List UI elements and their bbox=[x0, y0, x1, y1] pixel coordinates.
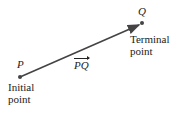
initial-point-caption: Initial point bbox=[8, 81, 34, 105]
point-p-label: P bbox=[17, 58, 24, 70]
initial-caption-line2: point bbox=[8, 93, 34, 105]
terminal-point-dot bbox=[140, 21, 144, 25]
point-q-label: Q bbox=[138, 5, 146, 17]
vector-label: PQ bbox=[74, 59, 89, 71]
initial-point-dot bbox=[18, 75, 22, 79]
terminal-caption-line2: point bbox=[130, 45, 170, 57]
terminal-caption-line1: Terminal bbox=[130, 33, 170, 45]
initial-caption-line1: Initial bbox=[8, 81, 34, 93]
vector-label-text: PQ bbox=[74, 59, 89, 71]
terminal-point-caption: Terminal point bbox=[130, 33, 170, 57]
vector-overbar-icon bbox=[74, 58, 89, 59]
